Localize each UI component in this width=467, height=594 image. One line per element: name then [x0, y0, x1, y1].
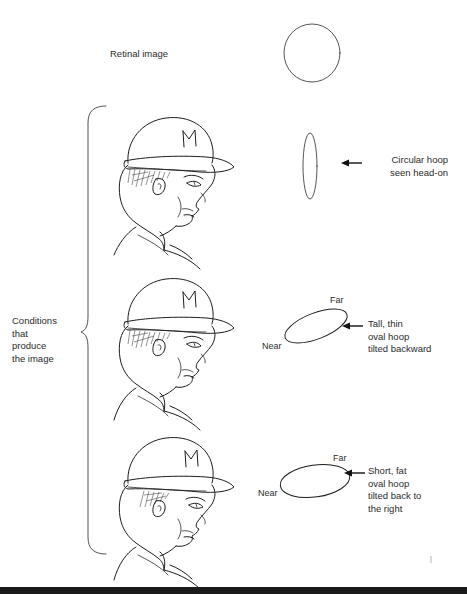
- hoop-caption-3: Short, fat oval hoop tilted back to the …: [368, 465, 467, 515]
- hoop-shape-head-on: [298, 128, 332, 206]
- figure-root: Retinal image Conditions that produce th…: [0, 0, 467, 594]
- near-label-3: Near: [258, 487, 278, 499]
- retinal-circle-shape: [276, 15, 351, 90]
- left-arrow-icon-3: [343, 467, 367, 479]
- hoop-caption-2: Tall, thin oval hoop tilted backward: [368, 318, 467, 356]
- retinal-image-label: Retinal image: [110, 48, 230, 61]
- far-label-2: Far: [330, 294, 344, 306]
- near-label-2: Near: [262, 340, 282, 352]
- far-label-3: Far: [333, 452, 347, 464]
- left-arrow-icon-2: [341, 320, 365, 332]
- hoop-shape-tilted-right: [272, 455, 362, 507]
- conditions-bracket: [80, 104, 110, 556]
- person-profile-1: [108, 105, 238, 255]
- person-profile-3: [108, 425, 238, 583]
- page-speck: [430, 556, 432, 563]
- conditions-label: Conditions that produce the image: [12, 315, 84, 365]
- bottom-bar: [0, 587, 467, 594]
- hoop-caption-1: Circular hoop seen head-on: [328, 154, 448, 179]
- person-profile-2: [108, 268, 238, 423]
